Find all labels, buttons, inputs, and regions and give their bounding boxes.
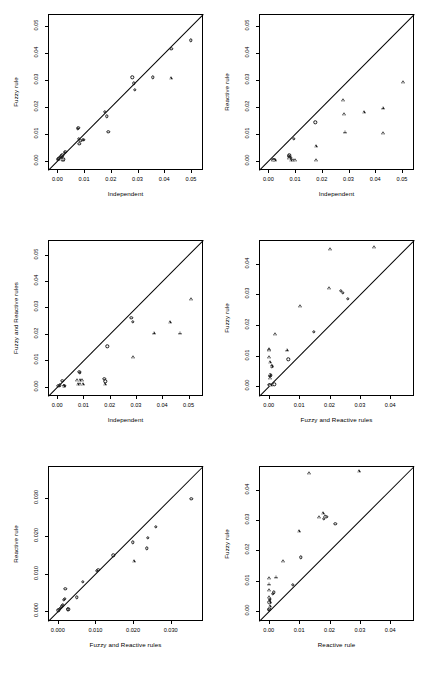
circle-marker [112,553,115,556]
y-axis-tick-label: 0.01 [244,123,250,143]
triangle-marker-fill [81,383,83,385]
triangle-marker [327,286,331,289]
x-axis-tick [57,170,58,173]
triangle-marker [169,76,173,79]
triangle-marker-fill [373,246,375,248]
triangle-marker-fill [268,596,270,598]
triangle-marker [307,471,311,474]
x-axis-tick [84,170,85,173]
triangle-marker [189,297,193,300]
x-axis-tick-label: 0.05 [183,402,194,408]
triangle-marker [267,576,271,579]
data-point-layer [48,466,203,621]
triangle-marker-fill [285,348,287,350]
x-axis-tick-label: 0.02 [324,402,335,408]
triangle-marker [362,110,366,113]
y-axis-tick-label: 0.00 [244,600,250,620]
x-axis-tick-label: 0.02 [316,176,327,182]
x-axis-label: Independent [319,190,355,197]
x-axis-tick [295,170,296,173]
triangle-marker [270,364,274,367]
triangle-marker [62,384,66,387]
x-axis-label: Fuzzy and Reactive rules [90,641,162,648]
triangle-marker [328,247,332,250]
x-axis-tick [268,170,269,173]
y-axis-tick-label: 0.03 [244,69,250,89]
circle-marker [131,541,134,544]
x-axis-tick [269,621,270,624]
triangle-marker-fill [315,159,317,161]
triangle-marker [268,360,272,363]
panel-5: 0.0000.0100.0200.0300.0000.0100.0200.030… [0,452,211,677]
circle-marker [105,345,108,348]
x-axis-tick-label: 0.01 [290,176,301,182]
triangle-marker-fill [132,560,134,562]
triangle-marker-fill [132,356,134,358]
triangle-marker-fill [381,107,383,109]
x-axis-tick [189,396,190,399]
triangle-marker-fill [342,99,344,101]
circle-marker [268,608,271,611]
x-axis-label: Independent [108,416,144,423]
x-axis-tick [375,170,376,173]
triangle-marker-fill [169,77,171,79]
circle-marker [64,150,67,153]
y-axis-label: Fuzzy and Reactive rules [12,282,19,354]
triangle-marker-fill [344,131,346,133]
circle-marker [82,138,85,141]
y-axis-tick-label: 0.010 [33,563,39,583]
x-axis-tick [111,170,112,173]
y-axis-tick-label: 0.02 [244,539,250,559]
x-axis-tick [330,621,331,624]
triangle-marker-fill [324,515,326,517]
triangle-marker [267,349,271,352]
x-axis-tick-label: 0.01 [294,627,305,633]
triangle-marker [267,356,271,359]
x-axis-tick-label: 0.00 [52,176,63,182]
y-axis-tick-label: 0.05 [33,15,39,35]
x-axis-tick [191,170,192,173]
triangle-marker-fill [273,159,275,161]
x-axis-tick [83,396,84,399]
panel-4: 0.000.010.020.030.040.000.010.020.030.04… [211,226,422,452]
circle-marker [291,583,294,586]
circle-marker [132,82,135,85]
y-axis-tick-label: 0.03 [33,69,39,89]
data-point-layer [259,466,414,621]
x-axis-tick [162,396,163,399]
circle-marker [61,603,64,606]
y-axis-tick-label: 0.01 [33,349,39,369]
x-axis-label: Fuzzy and Reactive rules [301,416,373,423]
x-axis-tick [58,621,59,624]
y-axis-tick-label: 0.04 [33,42,39,62]
y-axis-tick-label: 0.02 [33,323,39,343]
triangle-marker-fill [299,305,301,307]
data-point-layer [48,240,203,396]
circle-marker [76,126,79,129]
x-axis-tick-label: 0.04 [157,402,168,408]
triangle-marker-fill [329,248,331,250]
x-axis-tick-label: 0.00 [52,402,63,408]
triangle-marker-fill [402,81,404,83]
y-axis-tick-label: 0.00 [244,375,250,395]
triangle-marker-fill [275,576,277,578]
circle-marker [189,39,192,42]
triangle-marker-fill [190,298,192,300]
triangle-marker [268,376,272,379]
x-axis-tick [390,396,391,399]
circle-marker [272,591,275,594]
circle-marker [170,47,173,50]
triangle-marker-fill [268,605,270,607]
y-axis-label: Reactive rule [223,73,230,110]
figure-panel-grid: 0.000.010.020.030.040.050.000.010.020.03… [0,0,422,677]
triangle-marker [381,106,385,109]
triangle-marker-fill [268,361,270,363]
y-axis-tick-label: 0.05 [244,15,250,35]
y-axis-tick-label: 0.02 [244,96,250,116]
triangle-marker [267,582,271,585]
triangle-marker [267,595,271,598]
triangle-marker-fill [268,601,270,603]
y-axis-tick-label: 0.020 [33,525,39,545]
triangle-marker-fill [308,472,310,474]
circle-marker [346,297,349,300]
